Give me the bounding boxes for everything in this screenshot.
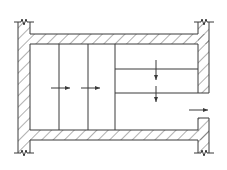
bottom-slab [30,130,209,140]
top-slab [30,34,209,44]
right-lower-wall [198,118,209,153]
enclosure-diagram [0,0,227,170]
right-upper-wall [198,22,209,93]
diagram-canvas [0,0,227,170]
left-wall [18,22,30,153]
